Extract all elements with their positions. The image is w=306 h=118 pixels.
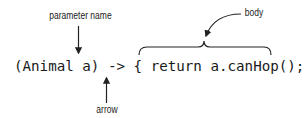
lambda-diagram: parameter name arrow body (Animal a) -> … — [0, 0, 306, 118]
body-label: body — [243, 7, 265, 18]
parameter-name-label: parameter name — [49, 10, 109, 21]
body-pointer-icon — [206, 14, 241, 36]
body-brace-icon — [139, 41, 271, 55]
lambda-code: (Animal a) -> { return a.canHop(); } — [14, 58, 306, 74]
arrow-label: arrow — [94, 104, 120, 115]
